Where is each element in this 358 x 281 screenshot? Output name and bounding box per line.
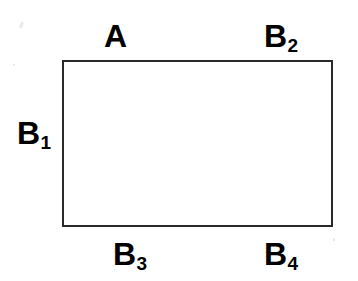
label-left-base: B [17,115,40,151]
rectangle-shape [62,60,333,227]
scan-artifact [19,22,24,29]
label-top-right-base: B [264,18,287,54]
label-bottom-left: B3 [113,238,146,270]
label-bottom-right: B4 [264,238,297,270]
label-bottom-right-subscript: 4 [288,253,299,274]
label-bottom-right-base: B [264,236,287,272]
label-top-right-subscript: 2 [288,35,299,56]
figure-canvas: A B2 B1 B3 B4 [0,0,358,281]
label-left: B1 [17,117,50,149]
label-bottom-left-base: B [113,236,136,272]
label-bottom-left-subscript: 3 [137,253,148,274]
label-top-left: A [104,20,127,52]
label-top-left-base: A [104,18,127,54]
scan-artifact [13,64,15,66]
label-left-subscript: 1 [41,132,52,153]
label-top-right: B2 [264,20,297,52]
scan-artifact [333,238,335,241]
